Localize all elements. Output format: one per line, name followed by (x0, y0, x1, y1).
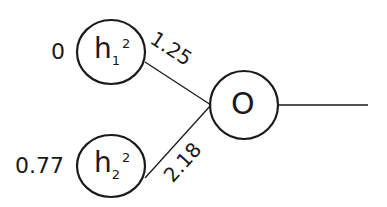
h1-superscript: 2 (122, 36, 130, 51)
h1-input-value: 0 (51, 41, 65, 63)
h1-subscript: 1 (112, 53, 120, 68)
edge-h1-to-o (145, 62, 211, 105)
h2-subscript: 2 (112, 167, 120, 182)
h2-base: h (94, 146, 112, 179)
network-diagram: 0 0.77 h12 h22 O 1.25 2.18 (0, 0, 387, 207)
h2-input-value: 0.77 (15, 155, 64, 177)
h1-base: h (94, 32, 112, 65)
node-h1-label: h12 (94, 35, 130, 67)
node-output-label: O (231, 89, 255, 119)
node-h2-label: h22 (94, 149, 130, 181)
h2-superscript: 2 (122, 150, 130, 165)
output-node-text: O (231, 86, 255, 121)
